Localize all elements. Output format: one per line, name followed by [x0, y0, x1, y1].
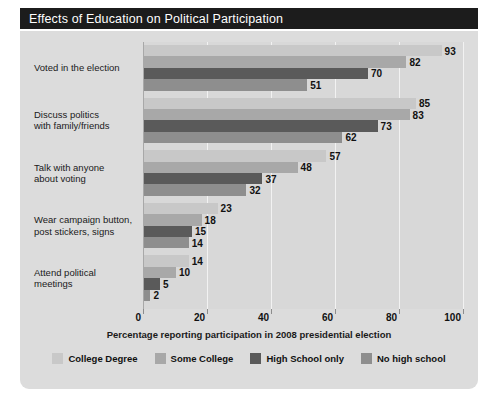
bar — [144, 184, 246, 195]
x-tick — [463, 309, 464, 314]
legend-swatch — [250, 353, 261, 364]
bar-value-label: 23 — [218, 203, 232, 214]
bar — [144, 79, 307, 90]
bar-value-label: 82 — [406, 57, 420, 68]
bar-row: 73 — [144, 120, 464, 131]
category-label-line: Discuss politics — [34, 109, 140, 121]
category-label-line: with family/friends — [34, 120, 140, 132]
bar-row: 5 — [144, 278, 464, 289]
bar-row: 32 — [144, 184, 464, 195]
bar — [144, 162, 298, 173]
legend-item[interactable]: College Degree — [52, 353, 137, 364]
plot-area: 93827051858373625748373223181514141052 — [143, 42, 464, 309]
legend-swatch — [52, 353, 63, 364]
legend-label: College Degree — [68, 353, 137, 364]
bar-value-label: 62 — [342, 132, 356, 143]
x-tick-label: 80 — [386, 312, 399, 323]
legend-label: High School only — [266, 353, 344, 364]
legend-item[interactable]: High School only — [250, 353, 344, 364]
bar — [144, 237, 189, 248]
legend-swatch — [155, 353, 166, 364]
legend-label: Some College — [171, 353, 234, 364]
bar — [144, 255, 189, 266]
bar-group: 141052 — [144, 255, 464, 301]
category-label-line: Voted in the election — [34, 62, 140, 74]
bar-row: 82 — [144, 56, 464, 67]
legend-item[interactable]: No high school — [361, 353, 446, 364]
x-tick — [399, 309, 400, 314]
bar — [144, 214, 202, 225]
bar — [144, 267, 176, 278]
x-axis: 020406080100 — [143, 309, 464, 323]
chart-title-bar: Effects of Education on Political Partic… — [20, 8, 478, 29]
x-tick-label: 100 — [444, 312, 463, 323]
chart-card: Voted in the electionDiscuss politicswit… — [20, 31, 478, 389]
bar-value-label: 37 — [262, 173, 276, 184]
bar-row: 10 — [144, 267, 464, 278]
bar-value-label: 48 — [298, 162, 312, 173]
bar-value-label: 57 — [326, 150, 340, 161]
bar-value-label: 14 — [189, 237, 203, 248]
bar — [144, 278, 160, 289]
bar-value-label: 85 — [416, 98, 430, 109]
bar — [144, 98, 416, 109]
category-label: Attend politicalmeetings — [34, 267, 140, 290]
bar-group: 85837362 — [144, 98, 464, 144]
bar-value-label: 32 — [246, 185, 260, 196]
chart-legend: College DegreeSome CollegeHigh School on… — [20, 353, 478, 364]
bar-value-label: 18 — [202, 214, 216, 225]
bar-value-label: 2 — [150, 290, 159, 301]
bar-row: 70 — [144, 68, 464, 79]
bar-value-label: 73 — [378, 121, 392, 132]
bar-group: 57483732 — [144, 150, 464, 196]
bar-row: 57 — [144, 150, 464, 161]
category-label-line: Attend political — [34, 267, 140, 279]
bar — [144, 132, 342, 143]
bar-row: 62 — [144, 132, 464, 143]
bar — [144, 173, 262, 184]
category-label: Voted in the election — [34, 62, 140, 74]
bar-row: 18 — [144, 214, 464, 225]
x-tick — [335, 309, 336, 314]
bar — [144, 120, 378, 131]
bar-row: 2 — [144, 290, 464, 301]
bar-value-label: 5 — [160, 278, 169, 289]
bar — [144, 109, 410, 120]
legend-label: No high school — [377, 353, 446, 364]
bar — [144, 68, 368, 79]
bar-value-label: 14 — [189, 256, 203, 267]
category-label-line: Wear campaign button, — [34, 214, 140, 226]
bar — [144, 45, 442, 56]
bar-row: 83 — [144, 109, 464, 120]
bar-row: 14 — [144, 237, 464, 248]
bar-row: 14 — [144, 255, 464, 266]
bar-value-label: 15 — [192, 226, 206, 237]
bar — [144, 56, 406, 67]
legend-item[interactable]: Some College — [155, 353, 234, 364]
category-label-line: about voting — [34, 173, 140, 185]
x-tick-label: 20 — [194, 312, 207, 323]
x-tick-label: 40 — [258, 312, 271, 323]
bar — [144, 226, 192, 237]
bar-group: 23181514 — [144, 203, 464, 249]
x-axis-caption: Percentage reporting participation in 20… — [20, 329, 478, 340]
bar — [144, 203, 218, 214]
bar-value-label: 51 — [307, 79, 321, 90]
bar-row: 93 — [144, 45, 464, 56]
chart-figure: Effects of Education on Political Partic… — [0, 0, 497, 407]
category-label: Discuss politicswith family/friends — [34, 109, 140, 132]
category-label-column: Voted in the electionDiscuss politicswit… — [20, 31, 140, 298]
bar-row: 37 — [144, 173, 464, 184]
x-tick — [207, 309, 208, 314]
bar-value-label: 70 — [368, 68, 382, 79]
x-tick — [143, 309, 144, 314]
category-label: Wear campaign button,post stickers, sign… — [34, 214, 140, 237]
category-label: Talk with anyoneabout voting — [34, 162, 140, 185]
bar-value-label: 83 — [410, 109, 424, 120]
bar-row: 23 — [144, 203, 464, 214]
page-title: Effects of Education on Political Partic… — [20, 12, 283, 26]
category-label-line: post stickers, signs — [34, 226, 140, 238]
bar-row: 51 — [144, 79, 464, 90]
x-tick-label: 0 — [135, 312, 143, 323]
bar-value-label: 10 — [176, 267, 190, 278]
